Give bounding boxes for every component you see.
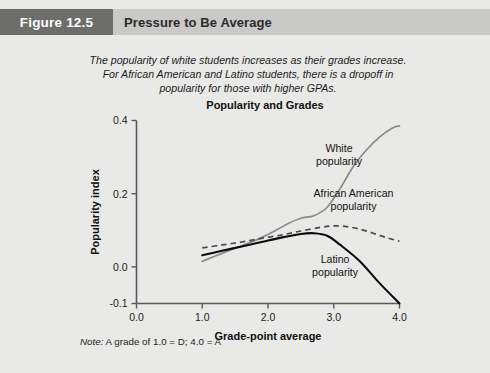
x-tick-label: 1.0 (195, 311, 210, 323)
series-line-african-american-popularity (202, 226, 399, 248)
x-tick-label: 2.0 (261, 311, 276, 323)
y-axis-title: Popularity index (89, 168, 101, 254)
note-text: A grade of 1.0 = D; 4.0 = A (103, 336, 221, 347)
y-tick-label: 0.0 (113, 261, 128, 273)
series-annotation-line2: popularity (316, 155, 363, 167)
y-tick-label: -0.1 (109, 297, 127, 309)
series-annotation-line1: African American (313, 187, 393, 199)
x-tick-label: 3.0 (326, 311, 341, 323)
x-tick-label: 0.0 (129, 311, 144, 323)
series-annotation-line1: Latino (321, 253, 350, 265)
series-annotation-line2: popularity (312, 266, 359, 278)
y-tick-label: 0.4 (113, 114, 128, 126)
x-tick-label: 4.0 (392, 311, 407, 323)
series-annotation-line1: White (325, 142, 352, 154)
note-label: Note: (80, 336, 103, 347)
x-axis-title: Grade-point average (215, 330, 322, 342)
series-annotation-line2: popularity (331, 200, 378, 212)
figure-note: Note: A grade of 1.0 = D; 4.0 = A (80, 336, 221, 347)
figure-container: Figure 12.5 Pressure to Be Average The p… (0, 0, 490, 373)
y-tick-label: 0.2 (113, 188, 128, 200)
chart-axes: 0.40.20.0-0.10.01.02.03.04.0 (109, 114, 407, 322)
chart-plot: 0.40.20.0-0.10.01.02.03.04.0 Whitepopula… (0, 0, 490, 373)
chart-series (202, 126, 399, 304)
